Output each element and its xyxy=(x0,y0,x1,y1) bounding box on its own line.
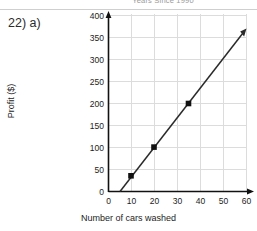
y-axis xyxy=(106,11,112,192)
x-axis-title: Number of cars washed xyxy=(0,213,257,223)
y-tick-label: 200 xyxy=(78,99,104,109)
trend-line xyxy=(120,29,247,192)
x-axis xyxy=(109,189,255,195)
y-tick-label: 250 xyxy=(78,77,104,87)
x-tick-label: 40 xyxy=(191,196,211,206)
x-tick-label: 0 xyxy=(99,196,119,206)
y-tick-label: 150 xyxy=(78,121,104,131)
x-tick-label: 10 xyxy=(122,196,142,206)
data-point xyxy=(186,101,192,107)
y-tick-label: 350 xyxy=(78,33,104,43)
data-point xyxy=(128,173,134,179)
profit-vs-cars-washed-chart: 400 350 300 250 200 150 100 50 0 0 10 20… xyxy=(0,0,257,231)
y-axis-title: Profit ($) xyxy=(6,66,16,136)
data-point xyxy=(151,144,157,150)
y-tick-label: 50 xyxy=(78,165,104,175)
x-tick-label: 50 xyxy=(214,196,234,206)
x-tick-label: 20 xyxy=(145,196,165,206)
x-tick-label: 30 xyxy=(168,196,188,206)
y-tick-label: 100 xyxy=(78,143,104,153)
x-tick-label: 60 xyxy=(237,196,257,206)
y-tick-label: 400 xyxy=(78,11,104,21)
y-tick-label: 300 xyxy=(78,55,104,65)
